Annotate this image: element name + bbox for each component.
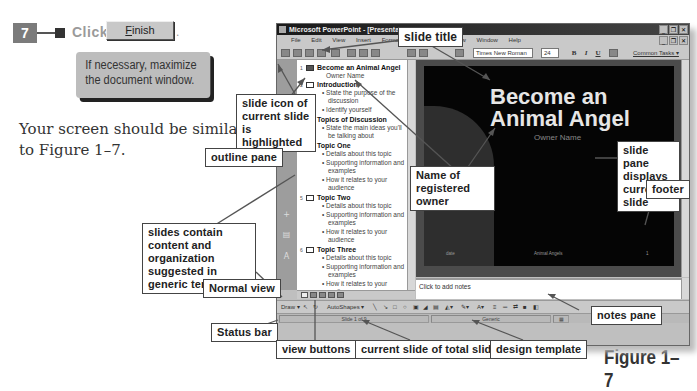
email-icon[interactable] — [317, 49, 326, 57]
menu-file[interactable]: File — [291, 37, 301, 43]
show-formatting-icon[interactable]: A — [281, 252, 292, 263]
cut-icon[interactable] — [347, 49, 356, 57]
textbox-icon[interactable]: ▣ — [413, 301, 419, 313]
menu-edit[interactable]: Edit — [311, 37, 321, 43]
dash-style-icon[interactable]: ═ — [503, 301, 507, 313]
autoshapes-menu[interactable]: AutoShapes ▾ — [327, 301, 364, 313]
summary-slide-icon[interactable]: ▤ — [281, 230, 292, 241]
font-name-dropdown[interactable]: Times New Roman — [473, 48, 533, 58]
view-buttons-bar — [297, 290, 415, 299]
doc-minimize-button[interactable]: _ — [659, 36, 668, 45]
slide-title-text: Become an Animal Angel — [317, 64, 401, 71]
outline-slide-2[interactable]: 2Introduction State the purpose of the d… — [300, 81, 407, 114]
normal-view-button[interactable] — [301, 292, 308, 298]
wordart-icon[interactable]: ◢ — [423, 301, 428, 313]
standard-toolbar: Times New Roman 24 B I U Common Tasks ▾ — [277, 46, 689, 60]
slide-title-text: Topic One — [317, 142, 351, 149]
clipart-icon[interactable]: ▤ — [433, 301, 439, 313]
notes-pane[interactable]: Click to add notes — [416, 278, 681, 299]
outline-bullet: How it relates to your audience — [306, 176, 407, 192]
outline-slide-3[interactable]: 3Topics of Discussion State the main ide… — [300, 116, 407, 140]
fill-color-icon[interactable]: ◭▾ — [445, 301, 453, 313]
slide-view-button[interactable] — [319, 292, 326, 298]
outline-subtitle: Owner Name — [300, 72, 407, 79]
line-color-icon[interactable]: ✎▾ — [461, 301, 469, 313]
common-tasks-button[interactable]: Common Tasks ▾ — [633, 48, 679, 58]
slide-icon-highlighted[interactable] — [306, 65, 314, 71]
open-icon[interactable] — [293, 49, 302, 57]
callout-current-slide: current slide of total slides — [355, 340, 510, 359]
outline-bullet: State the purpose of the discussion — [306, 89, 407, 105]
outline-slide-5[interactable]: 5Topic Two Details about this topic Supp… — [300, 194, 407, 244]
slide-show-button[interactable] — [337, 292, 344, 298]
new-icon[interactable] — [281, 49, 290, 57]
insert-table-icon[interactable] — [419, 49, 428, 57]
slide-owner-name[interactable]: Owner Name — [534, 133, 581, 142]
click-label: Click — [72, 24, 108, 40]
outline-slide-6[interactable]: 6Topic Three Details about this topic Su… — [300, 246, 407, 290]
slide-sorter-view-button[interactable] — [328, 292, 335, 298]
select-objects-icon[interactable]: ↖ — [303, 301, 308, 313]
finish-button[interactable]: Finish — [106, 21, 174, 40]
draw-menu[interactable]: Draw ▾ — [281, 301, 300, 313]
zoom-icon[interactable] — [455, 49, 464, 57]
expand-icon[interactable]: + — [281, 210, 292, 221]
slide-icon[interactable] — [306, 195, 314, 201]
slide-icon[interactable] — [306, 247, 314, 253]
outline-slide-4[interactable]: 4Topic One Details about this topic Supp… — [300, 142, 407, 192]
outline-view-button[interactable] — [310, 292, 317, 298]
arrow-icon[interactable]: ↘ — [383, 301, 388, 313]
menu-bar: File Edit View Insert Format Tools Slide… — [277, 35, 689, 46]
callout-outline-pane: outline pane — [205, 148, 283, 167]
app-icon — [279, 26, 286, 33]
tip-box: If necessary, maximize the document wind… — [76, 52, 210, 98]
callout-notes-pane: notes pane — [591, 306, 662, 325]
slide-icon[interactable] — [306, 82, 314, 88]
line-icon[interactable]: ╲ — [373, 301, 377, 313]
minimize-button[interactable]: _ — [659, 25, 668, 34]
copy-icon[interactable] — [359, 49, 368, 57]
outline-bullet: Supporting information and examples — [306, 159, 407, 175]
shadow-icon[interactable] — [609, 49, 618, 57]
menu-insert[interactable]: Insert — [356, 37, 371, 43]
callout-slide-pane: slide pane displays current slide — [617, 141, 680, 212]
callout-slide-icon: slide icon of current slide is highlight… — [236, 94, 316, 152]
undo-icon[interactable] — [371, 49, 380, 57]
doc-restore-button[interactable]: ❐ — [669, 36, 678, 45]
slide-title-text: Topic Two — [317, 194, 351, 201]
doc-close-button[interactable]: ✕ — [679, 36, 688, 45]
menu-window[interactable]: Window — [477, 37, 498, 43]
close-button[interactable]: ✕ — [679, 25, 688, 34]
italic-button[interactable]: I — [581, 48, 591, 58]
shadow-style-icon[interactable]: ■ — [523, 301, 527, 313]
callout-view-buttons: view buttons — [276, 340, 356, 359]
arrow-style-icon[interactable]: ⇄ — [513, 301, 518, 313]
outline-bullet: Identify yourself — [306, 106, 407, 114]
menu-help[interactable]: Help — [509, 37, 521, 43]
bold-button[interactable]: B — [569, 48, 579, 58]
notes-scrollbar[interactable] — [681, 278, 689, 299]
underline-button[interactable]: U — [593, 48, 603, 58]
callout-status-bar: Status bar — [211, 323, 278, 342]
slide-title-placeholder[interactable]: Become an Animal Angel — [490, 86, 674, 130]
oval-icon[interactable]: ○ — [403, 301, 407, 313]
callout-footer: footer — [646, 180, 690, 199]
font-color-icon[interactable]: A▾ — [477, 301, 484, 313]
3d-style-icon[interactable]: ◧ — [533, 301, 539, 313]
insert-chart-icon[interactable] — [407, 49, 416, 57]
design-template-status: Generic — [431, 315, 551, 323]
font-size-dropdown[interactable]: 24 — [541, 48, 559, 58]
menu-view[interactable]: View — [332, 37, 345, 43]
rectangle-icon[interactable]: □ — [393, 301, 397, 313]
callout-normal-view: Normal view — [203, 279, 281, 298]
print-icon[interactable] — [331, 49, 340, 57]
line-style-icon[interactable]: ≡ — [493, 301, 497, 313]
save-icon[interactable] — [305, 49, 314, 57]
callout-registered-owner: Name of registered owner — [410, 166, 495, 211]
free-rotate-icon[interactable]: ↻ — [313, 301, 318, 313]
outline-bullet: Details about this topic — [306, 202, 407, 210]
slide-scrollbar[interactable] — [681, 60, 689, 277]
slide-position-status: Slide 1 of 9 — [279, 315, 429, 323]
restore-button[interactable]: ❐ — [669, 25, 678, 34]
outline-slide-1[interactable]: 1Become an Animal Angel Owner Name — [300, 64, 407, 79]
